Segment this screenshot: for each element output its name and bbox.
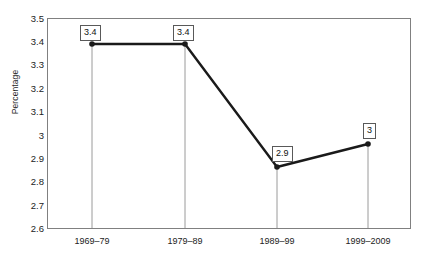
data-label: 3 [363,123,376,139]
line-chart: Percentage 3.5 3.4 3.3 3.2 3.1 3 2.9 2.8… [0,0,425,266]
data-point-marker [89,41,95,47]
data-point-marker [365,141,371,147]
x-tick-label: 1969–79 [74,236,109,246]
data-point-marker [182,41,188,47]
data-point-marker [274,164,280,170]
data-label: 3.4 [173,25,194,41]
x-tick-label: 1989–99 [259,236,294,246]
plot-frame [48,19,411,229]
plot-area [0,0,425,266]
x-tick-label: 1979–89 [167,236,202,246]
data-label: 2.9 [272,146,293,162]
x-tick-label: 1999–2009 [345,236,390,246]
data-label: 3.4 [80,25,101,41]
